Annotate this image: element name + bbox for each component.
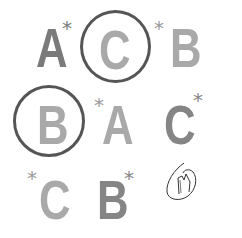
asterisk-icon: * <box>193 90 203 110</box>
letter-cancellation-sheet: A * C * B B * A C * * C B * <box>0 0 242 238</box>
letter-c-row1[interactable]: C <box>99 22 131 78</box>
handwritten-scribble-icon <box>160 160 205 205</box>
letter-a-row2[interactable]: A <box>102 97 134 153</box>
letter-c-row2[interactable]: C <box>164 97 196 153</box>
letter-b-row2[interactable]: B <box>37 97 69 153</box>
asterisk-icon: * <box>62 18 72 38</box>
asterisk-icon: * <box>154 18 164 38</box>
asterisk-icon: * <box>27 168 37 188</box>
letter-b-row1[interactable]: B <box>170 20 202 76</box>
asterisk-icon: * <box>124 168 134 188</box>
letter-c-row3[interactable]: C <box>39 172 71 228</box>
